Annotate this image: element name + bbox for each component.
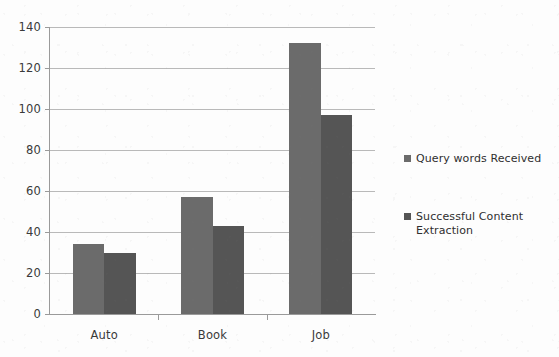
x-axis-tick xyxy=(158,314,159,320)
gridline xyxy=(50,68,375,69)
legend-item[interactable]: Query words Received xyxy=(404,152,541,166)
y-axis-tick-label: 120 xyxy=(18,61,41,75)
legend-swatch-icon xyxy=(404,155,411,162)
bar xyxy=(73,244,105,314)
y-axis-tick xyxy=(45,191,50,192)
legend-label: Query words Received xyxy=(416,152,541,166)
y-axis-tick xyxy=(45,314,50,315)
y-axis-tick-label: 20 xyxy=(26,266,41,280)
legend-label: Successful Content Extraction xyxy=(416,210,523,238)
y-axis-tick-label: 140 xyxy=(18,20,41,34)
y-axis-tick-label: 60 xyxy=(26,184,41,198)
gridline xyxy=(50,27,375,28)
y-axis-tick xyxy=(45,27,50,28)
legend-swatch-icon xyxy=(404,213,411,220)
y-axis-tick-label: 80 xyxy=(26,143,41,157)
legend-item[interactable]: Successful Content Extraction xyxy=(404,210,523,238)
y-axis-line xyxy=(49,27,50,314)
bar xyxy=(321,115,353,314)
y-axis-tick-label: 100 xyxy=(18,102,41,116)
y-axis-tick-label: 40 xyxy=(26,225,41,239)
gridline xyxy=(50,109,375,110)
bar-chart: 020406080100120140 AutoBookJob Query wor… xyxy=(0,0,559,357)
y-axis-tick xyxy=(45,68,50,69)
x-axis-category-label: Auto xyxy=(90,328,118,342)
x-axis-tick xyxy=(267,314,268,320)
x-axis-category-label: Book xyxy=(198,328,227,342)
y-axis-tick xyxy=(45,150,50,151)
y-axis-tick-label: 0 xyxy=(33,307,41,321)
bar xyxy=(181,197,213,314)
bar xyxy=(213,226,245,314)
x-axis-line xyxy=(49,314,376,315)
x-axis-category-label: Job xyxy=(312,328,330,342)
y-axis-tick xyxy=(45,109,50,110)
plot-area: 020406080100120140 AutoBookJob xyxy=(50,27,375,314)
bar xyxy=(104,253,136,315)
y-axis-tick xyxy=(45,232,50,233)
bar xyxy=(289,43,321,314)
y-axis-tick xyxy=(45,273,50,274)
